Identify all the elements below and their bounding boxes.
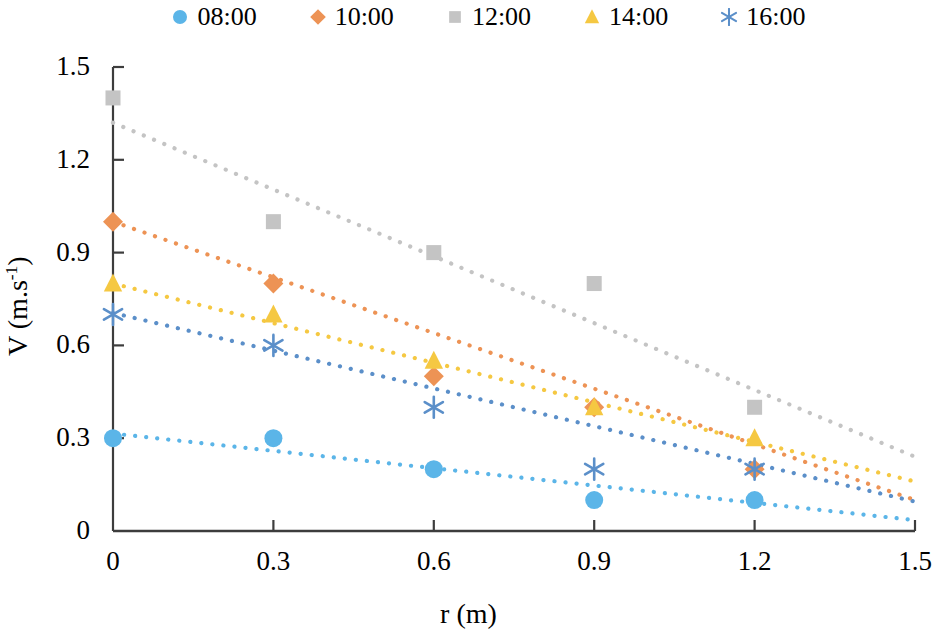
x-axis-tick-label: 1.2	[715, 548, 795, 575]
chart-container: 08:0010:0012:0014:0016:00 00.30.60.91.21…	[0, 0, 937, 641]
x-axis-tick-label: 1.5	[875, 548, 937, 575]
x-axis-tick-labels: 00.30.60.91.21.5	[0, 0, 937, 641]
y-axis-title: V (m.s-1)	[2, 176, 34, 436]
x-axis-tick-label: 0	[73, 548, 153, 575]
x-axis-tick-label: 0.6	[394, 548, 474, 575]
y-axis-title-exponent: -1	[2, 266, 21, 280]
y-axis-title-close: )	[2, 256, 33, 265]
y-axis-title-main: V (m.s	[2, 280, 33, 356]
x-axis-tick-label: 0.9	[554, 548, 634, 575]
x-axis-title: r (m)	[0, 598, 937, 630]
x-axis-tick-label: 0.3	[233, 548, 313, 575]
